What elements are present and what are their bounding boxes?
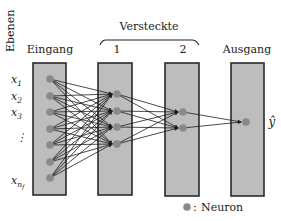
- layer-label-input: Eingang: [27, 43, 73, 56]
- axis-label-ebenen: Ebenen: [4, 10, 17, 52]
- input-label-2: x2: [11, 90, 22, 105]
- input-label-3: x3: [11, 106, 22, 121]
- neuron-input-3: [46, 108, 54, 116]
- neuron-hidden1-2: [113, 107, 121, 115]
- connection-edges: [50, 79, 241, 178]
- neuron-input-1: [46, 75, 54, 83]
- legend-neuron-icon: [183, 203, 191, 211]
- output-label-yhat: ŷ: [268, 115, 276, 129]
- neuron-hidden2-2: [179, 124, 187, 132]
- neuron-output-1: [242, 118, 250, 126]
- input-label-5: xnf: [11, 174, 26, 191]
- neuron-input-5: [46, 141, 54, 149]
- input-label-1: x1: [11, 73, 22, 88]
- neuron-hidden1-1: [113, 90, 121, 98]
- input-label-4: ⋮: [16, 131, 27, 144]
- legend-separator: :: [193, 201, 197, 214]
- neuron-input-4: [46, 125, 54, 133]
- neural-network-diagram: Ebenen Versteckte Eingang 1 2 Ausgang x1…: [0, 0, 281, 221]
- layer-label-output: Ausgang: [222, 43, 271, 56]
- neuron-hidden1-3: [113, 123, 121, 131]
- layer-box-output: [231, 63, 264, 196]
- neuron-hidden2-1: [179, 108, 187, 116]
- neuron-input-7: [46, 174, 54, 182]
- neuron-input-2: [46, 92, 54, 100]
- legend-label: Neuron: [201, 201, 243, 214]
- neuron-hidden1-4: [113, 140, 121, 148]
- hidden-group-label: Versteckte: [118, 20, 178, 33]
- layer-label-hidden1: 1: [114, 43, 121, 56]
- neuron-input-6: [46, 158, 54, 166]
- input-labels: x1x2x3⋮xnf: [11, 73, 27, 191]
- layer-label-hidden2: 2: [180, 43, 187, 56]
